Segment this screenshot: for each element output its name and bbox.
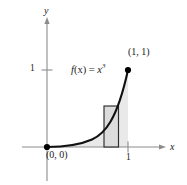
x-axis-label: x <box>170 142 174 152</box>
x-axis-arrowhead <box>159 144 166 149</box>
function-graph-figure: y x 1 1 (0, 0) (1, 1) f(x) = x3 <box>0 0 187 185</box>
x-axis-tick-label-1: 1 <box>126 153 131 163</box>
function-arg-text: (x) = <box>74 64 97 75</box>
origin-point-label: (0, 0) <box>46 150 68 160</box>
y-axis-arrowhead <box>44 17 49 24</box>
y-axis-label: y <box>44 6 48 16</box>
y-axis-tick-label-1: 1 <box>30 64 35 74</box>
upper-point-label: (1, 1) <box>128 47 150 57</box>
function-equation-label: f(x) = x3 <box>71 63 106 75</box>
graph-canvas <box>0 0 187 185</box>
function-exponent-text: 3 <box>102 62 106 70</box>
point-one-one-dot <box>125 67 131 73</box>
